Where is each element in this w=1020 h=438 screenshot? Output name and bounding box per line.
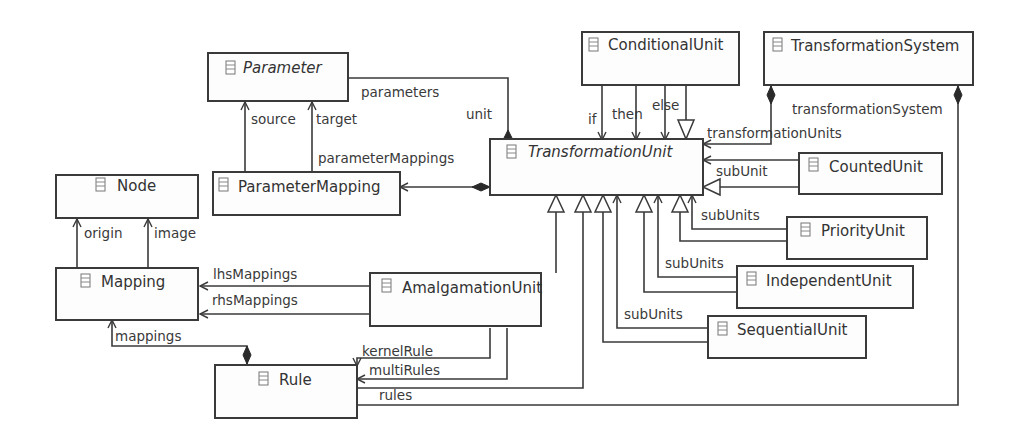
class-icon	[81, 274, 90, 287]
class-icon	[747, 272, 756, 285]
role-target: target	[316, 111, 357, 127]
role-then: then	[612, 106, 643, 122]
class-icon	[809, 158, 818, 171]
role-unit: unit	[466, 106, 492, 122]
role-parameters: parameters	[361, 84, 439, 100]
role-sub-unit: subUnit	[716, 163, 768, 179]
generalization-triangle-icon	[703, 179, 720, 195]
class-name: AmalgamationUnit	[402, 279, 542, 297]
role-transformation-system: transformationSystem	[792, 101, 943, 117]
class-icon	[259, 372, 268, 385]
class-parameter[interactable]: Parameter	[208, 53, 348, 101]
class-icon	[718, 322, 727, 335]
class-name: Parameter	[243, 59, 323, 77]
class-icon	[219, 178, 228, 191]
class-priority-unit[interactable]: PriorityUnit	[787, 217, 927, 259]
class-icon	[382, 279, 391, 292]
role-else: else	[652, 97, 679, 113]
class-amalgamation-unit[interactable]: AmalgamationUnit	[370, 273, 542, 326]
generalization-triangle-icon	[575, 195, 591, 212]
composition-diamond-icon	[243, 346, 251, 364]
generalization-triangle-icon	[548, 195, 564, 212]
class-icon	[589, 38, 598, 51]
class-name: CountedUnit	[829, 158, 923, 176]
class-name: IndependentUnit	[766, 272, 892, 290]
generalization-triangle-icon	[636, 195, 652, 212]
role-lhs-mappings: lhsMappings	[213, 266, 297, 282]
class-icon	[507, 145, 516, 158]
class-icon	[96, 178, 105, 191]
generalization-triangle-icon	[678, 120, 694, 139]
class-name: Mapping	[101, 273, 165, 291]
class-name: Node	[117, 177, 156, 195]
role-sub-units-sequential: subUnits	[624, 306, 683, 322]
class-mapping[interactable]: Mapping	[56, 268, 198, 320]
class-name: PriorityUnit	[821, 222, 905, 240]
class-name: TransformationSystem	[790, 37, 959, 55]
role-mappings: mappings	[115, 328, 181, 344]
class-conditional-unit[interactable]: ConditionalUnit	[582, 32, 739, 85]
generalization-triangle-icon	[595, 195, 611, 212]
class-node[interactable]: Node	[56, 175, 198, 218]
role-rhs-mappings: rhsMappings	[212, 292, 298, 308]
class-icon	[226, 61, 235, 74]
class-sequential-unit[interactable]: SequentialUnit	[708, 316, 866, 358]
role-sub-units-independent: subUnits	[665, 255, 724, 271]
class-transformation-system[interactable]: TransformationSystem	[764, 32, 973, 85]
class-icon	[801, 223, 810, 236]
role-multi-rules: multiRules	[369, 362, 440, 378]
class-name: ParameterMapping	[238, 178, 380, 196]
class-name: ConditionalUnit	[608, 36, 724, 54]
role-kernel-rule: kernelRule	[362, 343, 433, 359]
class-independent-unit[interactable]: IndependentUnit	[737, 266, 913, 308]
class-counted-unit[interactable]: CountedUnit	[799, 153, 942, 194]
role-parameter-mappings: parameterMappings	[318, 150, 454, 166]
class-name: TransformationUnit	[528, 143, 673, 161]
class-icon	[773, 38, 782, 51]
composition-diamond-icon	[472, 183, 490, 191]
role-sub-units-priority: subUnits	[701, 207, 760, 223]
role-transformation-units: transformationUnits	[707, 125, 842, 141]
class-name: Rule	[279, 371, 312, 389]
class-parameter-mapping[interactable]: ParameterMapping	[213, 172, 400, 215]
class-transformation-unit[interactable]: TransformationUnit	[490, 139, 703, 195]
class-diagram-canvas: parameters unit source target parameterM…	[0, 0, 1020, 438]
composition-diamond-icon	[767, 86, 775, 104]
composition-diamond-icon	[954, 86, 962, 104]
class-rule[interactable]: Rule	[215, 365, 357, 418]
role-rules: rules	[379, 387, 412, 403]
role-if: if	[588, 111, 598, 127]
generalization-triangle-icon	[672, 195, 688, 212]
class-name: SequentialUnit	[737, 321, 848, 339]
role-origin: origin	[84, 225, 122, 241]
role-image: image	[154, 225, 196, 241]
role-source: source	[251, 111, 296, 127]
